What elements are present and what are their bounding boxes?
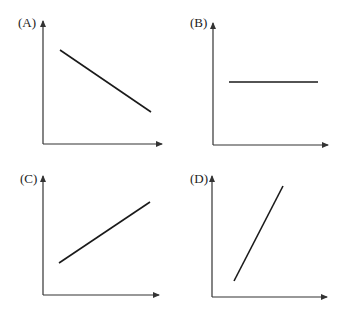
figure-canvas [0, 0, 352, 314]
panel-a-decreasing-line [60, 50, 151, 112]
panel-a [43, 21, 162, 144]
panel-a-label: (A) [18, 16, 36, 29]
panel-d-steep-line [234, 186, 283, 281]
panel-c [43, 176, 159, 295]
panel-d [212, 176, 327, 297]
panel-d-label: (D) [190, 172, 208, 185]
panel-b-label: (B) [190, 16, 207, 29]
panel-c-increasing-line [59, 202, 150, 263]
panel-c-label: (C) [20, 172, 37, 185]
panel-b [213, 23, 328, 145]
